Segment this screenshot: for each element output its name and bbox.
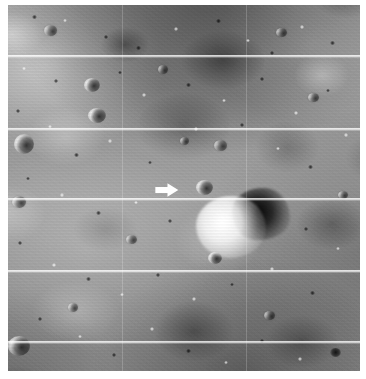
speck: [260, 339, 264, 343]
speck: [222, 99, 226, 102]
speck: [276, 147, 280, 150]
speck: [38, 317, 42, 321]
speck: [142, 93, 146, 97]
speck: [32, 15, 37, 19]
speck: [26, 177, 30, 180]
regolith-mottle-layer: [8, 5, 360, 371]
margin-bottom: [0, 371, 366, 379]
speck: [224, 361, 228, 364]
crater-generic-h: [338, 191, 348, 199]
speck: [330, 41, 335, 45]
crater-generic-c: [308, 93, 319, 102]
speck: [326, 89, 330, 92]
speck: [74, 153, 79, 157]
crater-right-lower: [330, 348, 341, 357]
film-grain-layer: [8, 5, 360, 371]
speck: [192, 297, 196, 301]
speck: [78, 335, 82, 338]
speck: [186, 83, 191, 87]
speck: [304, 227, 308, 231]
crater-west-rim-bright: [14, 134, 34, 154]
speck: [194, 127, 198, 131]
speck: [54, 79, 58, 83]
speck: [63, 19, 67, 22]
speck: [96, 211, 101, 215]
margin-left: [0, 0, 8, 379]
margin-right: [360, 0, 366, 379]
crater-generic-g: [180, 137, 189, 145]
framelet-line-1: [8, 55, 360, 57]
framelet-line-3: [8, 198, 360, 200]
bright-dome: [196, 196, 266, 258]
speck: [148, 161, 152, 164]
speck: [156, 273, 160, 277]
crater-mid-right: [214, 140, 227, 151]
crater-right-of-arrow: [196, 180, 213, 195]
lunar-photograph-page: [0, 0, 366, 379]
speck: [246, 39, 250, 42]
speck: [240, 123, 244, 127]
speck: [336, 247, 340, 250]
speck: [260, 77, 264, 81]
speck: [18, 241, 22, 245]
speck: [108, 139, 112, 143]
framelet-line-5: [8, 341, 360, 343]
speck: [344, 133, 348, 137]
speck: [216, 19, 221, 23]
speck: [112, 353, 116, 357]
speck: [174, 27, 178, 31]
crater-upper-left-pair-b: [88, 108, 106, 123]
seam-vertical-2: [246, 5, 247, 371]
crater-below-dome: [208, 252, 222, 264]
speck: [104, 35, 108, 39]
crater-generic-e: [68, 303, 78, 312]
framelet-line-2: [8, 128, 360, 130]
crater-generic-a: [44, 25, 57, 36]
crater-lower-left-dark: [8, 336, 30, 356]
speck: [52, 263, 56, 267]
speck: [60, 193, 64, 197]
speck: [230, 283, 234, 286]
speck: [294, 111, 298, 115]
speck: [86, 277, 91, 281]
speck: [48, 125, 52, 128]
speck: [270, 267, 274, 271]
crater-generic-d: [126, 235, 137, 244]
speck: [22, 67, 26, 70]
speck: [300, 25, 304, 29]
speck: [308, 165, 313, 169]
crater-generic-b: [158, 65, 168, 74]
regolith-base-tone: [8, 5, 360, 371]
speck: [134, 201, 138, 204]
speck: [16, 109, 20, 113]
crater-mid-left-dark: [12, 196, 26, 208]
crater-generic-f: [264, 311, 275, 320]
crater-top-right: [276, 28, 287, 37]
scanline-layer: [8, 5, 360, 371]
framelet-line-4: [8, 270, 360, 272]
speck: [118, 71, 122, 74]
speck: [168, 219, 172, 223]
dome-shadow: [232, 188, 290, 240]
speck: [120, 293, 124, 296]
speck: [136, 46, 141, 50]
crater-upper-left-pair-a: [84, 78, 100, 92]
lunar-surface-image: [8, 5, 360, 371]
speck: [150, 327, 154, 331]
speck: [310, 291, 315, 295]
speck: [298, 357, 302, 361]
speck: [186, 349, 191, 353]
seam-vertical-1: [122, 5, 123, 371]
speck: [270, 51, 274, 55]
